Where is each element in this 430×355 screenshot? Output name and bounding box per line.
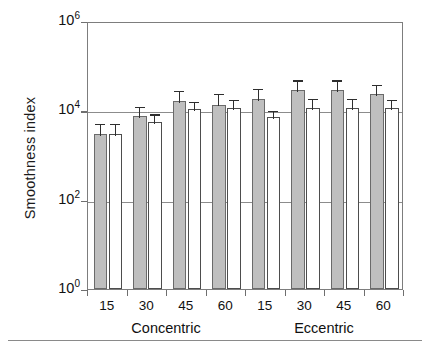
- x-tick-label-5: 30: [285, 298, 325, 313]
- x-tick-label-2: 45: [166, 298, 206, 313]
- plot-area: [87, 22, 403, 290]
- x-tick-mark-4: [245, 290, 246, 296]
- error-bar-cap-open-6: [347, 99, 357, 100]
- error-bar-stem-filled-1: [139, 107, 140, 118]
- error-bar-cap-filled-0: [95, 124, 105, 125]
- error-bar-stem-open-6: [352, 99, 353, 110]
- bar-open-6: [346, 108, 360, 289]
- error-bar-cap-filled-5: [293, 80, 303, 81]
- bar-filled-6: [331, 90, 345, 289]
- error-bar-stem-open-3: [233, 100, 234, 110]
- bar-open-4: [267, 117, 281, 289]
- error-bar-stem-open-2: [194, 102, 195, 111]
- error-bar-cap-filled-6: [332, 80, 342, 81]
- error-bar-stem-filled-6: [337, 80, 338, 92]
- bar-filled-7: [370, 94, 384, 289]
- error-bar-cap-filled-1: [135, 107, 145, 108]
- bar-open-5: [306, 108, 320, 289]
- error-bar-stem-open-7: [391, 100, 392, 110]
- error-bar-cap-open-0: [110, 124, 120, 125]
- bar-filled-2: [173, 101, 187, 289]
- x-tick-label-1: 30: [127, 298, 167, 313]
- bar-open-0: [109, 134, 123, 289]
- x-tick-mark-end: [403, 290, 404, 296]
- error-bar-stem-filled-3: [218, 94, 219, 107]
- error-bar-cap-filled-7: [372, 85, 382, 86]
- group-label-eccentric: Eccentric: [245, 320, 403, 336]
- bar-filled-0: [94, 134, 108, 289]
- error-bar-stem-filled-7: [376, 85, 377, 97]
- x-tick-label-0: 15: [87, 298, 127, 313]
- error-bar-stem-open-5: [312, 99, 313, 110]
- bar-open-1: [148, 122, 162, 289]
- error-bar-cap-open-3: [229, 100, 239, 101]
- error-bar-stem-filled-4: [258, 89, 259, 101]
- y-tick-label-0: 100: [58, 280, 80, 296]
- bar-filled-1: [133, 116, 147, 289]
- error-bar-cap-filled-4: [253, 89, 263, 90]
- x-tick-mark-0: [87, 290, 88, 296]
- error-bar-stem-open-1: [154, 114, 155, 124]
- bar-filled-4: [252, 99, 266, 289]
- error-bar-stem-open-0: [115, 124, 116, 136]
- y-tick-label-2: 102: [58, 191, 80, 207]
- x-tick-label-4: 15: [245, 298, 285, 313]
- y-tick-label-6: 106: [58, 12, 80, 28]
- bar-filled-5: [291, 90, 305, 289]
- x-tick-mark-3: [206, 290, 207, 296]
- bar-open-3: [227, 108, 241, 289]
- error-bar-cap-open-1: [150, 114, 160, 115]
- bar-filled-3: [212, 105, 226, 290]
- x-tick-mark-6: [324, 290, 325, 296]
- group-label-concentric: Concentric: [87, 320, 245, 336]
- error-bar-stem-open-4: [273, 111, 274, 120]
- bottom-divider: [8, 340, 422, 341]
- x-tick-mark-5: [285, 290, 286, 296]
- x-tick-mark-2: [166, 290, 167, 296]
- error-bar-cap-open-5: [308, 99, 318, 100]
- error-bar-cap-open-2: [189, 102, 199, 103]
- y-tick-label-4: 104: [58, 101, 80, 117]
- bar-open-7: [385, 108, 399, 289]
- error-bar-cap-filled-2: [174, 91, 184, 92]
- error-bar-stem-filled-2: [179, 91, 180, 103]
- error-bar-cap-open-4: [268, 111, 278, 112]
- error-bar-stem-filled-0: [100, 124, 101, 136]
- x-tick-label-6: 45: [324, 298, 364, 313]
- error-bar-cap-open-7: [387, 100, 397, 101]
- y-axis-title: Smoothness index: [22, 68, 38, 248]
- x-tick-mark-1: [127, 290, 128, 296]
- figure: Smoothness index 100102104106 1530456015…: [0, 0, 430, 355]
- x-tick-mark-7: [364, 290, 365, 296]
- bar-open-2: [188, 109, 202, 289]
- error-bar-stem-filled-5: [297, 80, 298, 92]
- x-tick-label-7: 60: [364, 298, 404, 313]
- x-tick-label-3: 60: [206, 298, 246, 313]
- error-bar-cap-filled-3: [214, 94, 224, 95]
